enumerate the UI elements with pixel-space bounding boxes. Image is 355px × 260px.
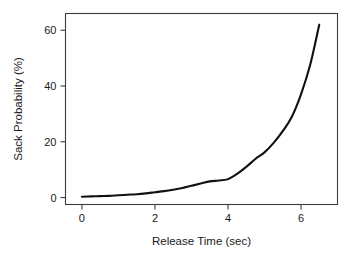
y-tick-label: 20 — [44, 136, 56, 148]
x-tick-label: 2 — [152, 212, 158, 224]
x-tick-label: 0 — [79, 212, 85, 224]
y-tick-label: 40 — [44, 80, 56, 92]
x-axis-title: Release Time (sec) — [152, 235, 251, 247]
chart-svg: 0246 0204060 Release Time (sec) Sack Pro… — [0, 0, 355, 260]
y-axis-title: Sack Probability (%) — [12, 57, 24, 161]
y-tick-label: 0 — [50, 192, 56, 204]
y-tick-label: 60 — [44, 24, 56, 36]
x-tick-label: 6 — [298, 212, 304, 224]
chart-container: 0246 0204060 Release Time (sec) Sack Pro… — [0, 0, 355, 260]
x-tick-label: 4 — [225, 212, 231, 224]
